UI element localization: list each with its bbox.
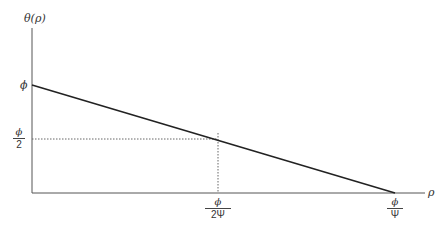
x-axis-label: ρ xyxy=(428,187,434,198)
x-tick-end-denominator: Ψ xyxy=(387,209,403,220)
x-tick-mid-numerator: ϕ xyxy=(205,197,231,208)
y-tick-phi-half: ϕ 2 xyxy=(13,127,25,150)
diagram-canvas xyxy=(0,0,445,228)
x-tick-phi-over-psi: ϕ Ψ xyxy=(387,197,403,220)
y-tick-phi-half-numerator: ϕ xyxy=(13,127,25,138)
x-tick-mid-denominator: 2Ψ xyxy=(205,209,231,220)
y-tick-phi: ϕ xyxy=(20,80,28,91)
x-tick-end-numerator: ϕ xyxy=(387,197,403,208)
y-axis-label: θ(ρ) xyxy=(24,13,46,24)
x-tick-phi-over-2psi: ϕ 2Ψ xyxy=(205,197,231,220)
y-tick-phi-half-denominator: 2 xyxy=(13,139,25,150)
